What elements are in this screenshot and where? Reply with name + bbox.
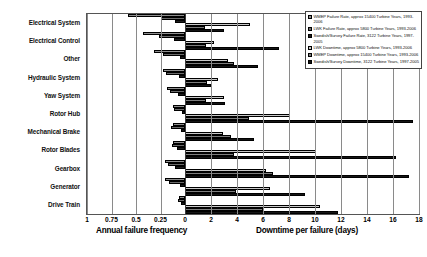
y-axis-label-hydraulic-system: Hydraulic System: [28, 73, 80, 80]
legend-swatch-icon: [308, 46, 312, 50]
gridline-failure-0.25: [161, 14, 162, 214]
bar-swedish-survey-failure-rate: [175, 20, 185, 23]
chart-container: Electrical SystemElectrical ControlOther…: [0, 0, 427, 257]
legend-swatch-icon: [308, 15, 312, 19]
x-tick-failure-1: 1: [85, 216, 89, 223]
y-axis-label-gearbox: Gearbox: [55, 164, 80, 171]
bar-swedish-survey-failure-rate: [174, 38, 185, 41]
y-axis-label-electrical-control: Electrical Control: [29, 37, 80, 44]
legend-item: LWK Failure Rate, approx 5800 Turbine Ye…: [308, 26, 419, 31]
gridline-failure-1: [87, 14, 88, 214]
gridline-downtime-6: [263, 14, 264, 214]
zero-divider: [185, 14, 186, 214]
x-tick-downtime-6: 6: [261, 216, 265, 223]
gridline-downtime-8: [289, 14, 290, 214]
x-tick-failure-0.5: 0.5: [131, 216, 140, 223]
legend-label: LWK Downtime, approx 5800 Turbine Years,…: [314, 45, 412, 50]
gridline-failure-0.75: [112, 14, 113, 214]
y-axis-label-other: Other: [63, 55, 80, 62]
y-axis-label-electrical-system: Electrical System: [29, 19, 80, 26]
x-tick-failure-0.25: 0.25: [154, 216, 167, 223]
legend-swatch-icon: [308, 34, 312, 38]
y-axis-category-labels: Electrical SystemElectrical ControlOther…: [0, 13, 83, 215]
bar-swedish-survey-failure-rate: [177, 147, 185, 150]
y-axis-label-rotor-blades: Rotor Blades: [41, 146, 80, 153]
x-tick-failure-0: 0: [183, 216, 187, 223]
gridline-failure-0.5: [136, 14, 137, 214]
x-tick-downtime-16: 16: [389, 216, 396, 223]
legend-swatch-icon: [308, 60, 312, 64]
x-tick-downtime-2: 2: [209, 216, 213, 223]
y-axis-label-mechanical-brake: Mechanical Brake: [28, 128, 80, 135]
x-tick-downtime-4: 4: [235, 216, 239, 223]
bar-swedish-survey-failure-rate: [175, 166, 185, 169]
y-axis-label-generator: Generator: [50, 182, 80, 189]
gridline-downtime-4: [237, 14, 238, 214]
legend-label: LWK Failure Rate, approx 5800 Turbine Ye…: [314, 26, 416, 31]
x-tick-failure-0.75: 0.75: [105, 216, 118, 223]
legend-item: Swedish/Survey Downtime, 3122 Turbine Ye…: [308, 59, 419, 64]
legend-item: WMEP Downtime, approx 15400 Turbine Year…: [308, 52, 419, 57]
x-tick-downtime-18: 18: [415, 216, 422, 223]
y-axis-label-drive-train: Drive Train: [48, 200, 80, 207]
x-tick-downtime-12: 12: [337, 216, 344, 223]
legend-swatch-icon: [308, 27, 312, 31]
x-axis-title-right: Downtime per failure (days): [256, 226, 358, 235]
legend-label: WMEP Downtime, approx 15400 Turbine Year…: [314, 52, 419, 57]
bar-swedish-survey-failure-rate: [178, 93, 185, 96]
x-axis-title-left: Annual failure frequency: [96, 226, 187, 235]
legend-item: LWK Downtime, approx 5800 Turbine Years,…: [308, 45, 419, 50]
x-tick-downtime-8: 8: [287, 216, 291, 223]
legend-label: WMEP Failure Rate, approx 15400 Turbine …: [314, 14, 420, 25]
legend-item: WMEP Failure Rate, approx 15400 Turbine …: [308, 14, 419, 25]
legend-item: Swedish/Survey Failure Rate, 3122 Turbin…: [308, 33, 419, 44]
legend: WMEP Failure Rate, approx 15400 Turbine …: [305, 11, 422, 69]
y-axis-label-rotor-hub: Rotor Hub: [50, 110, 80, 117]
legend-swatch-icon: [308, 53, 312, 57]
gridline-downtime-2: [211, 14, 212, 214]
x-tick-downtime-10: 10: [311, 216, 318, 223]
x-tick-downtime-14: 14: [363, 216, 370, 223]
y-axis-label-yaw-system: Yaw System: [44, 91, 80, 98]
legend-label: Swedish/Survey Failure Rate, 3122 Turbin…: [314, 33, 420, 44]
legend-label: Swedish/Survey Downtime, 3122 Turbine Ye…: [314, 59, 419, 64]
